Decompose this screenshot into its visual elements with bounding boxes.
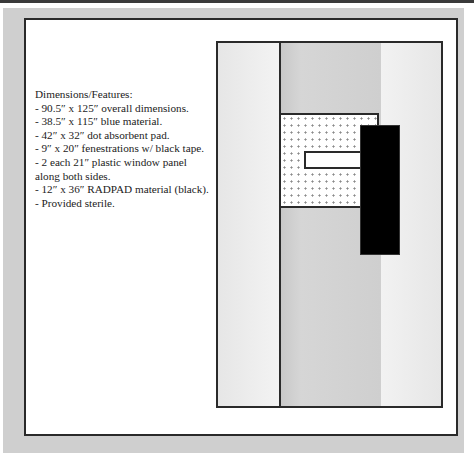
radpad-material — [360, 125, 400, 255]
feature-line: - 42″ x 32″ dot absorbent pad. — [35, 129, 235, 143]
feature-line: - 2 each 21″ plastic window panel — [35, 156, 235, 170]
drape-diagram — [216, 41, 443, 408]
feature-line: - 9″ x 20″ fenestrations w/ black tape. — [35, 142, 235, 156]
feature-line: - Provided sterile. — [35, 197, 235, 211]
left-plastic-window-panel — [218, 43, 279, 406]
feature-line: - 38.5″ x 115″ blue material. — [35, 115, 235, 129]
features-description: Dimensions/Features: - 90.5″ x 125″ over… — [35, 88, 235, 210]
feature-line: - 12″ x 36″ RADPAD material (black). — [35, 183, 235, 197]
feature-line: along both sides. — [35, 170, 235, 184]
features-heading: Dimensions/Features: — [35, 88, 235, 102]
top-rule — [0, 0, 474, 3]
feature-line: - 90.5″ x 125″ overall dimensions. — [35, 102, 235, 116]
fenestration — [304, 151, 364, 169]
